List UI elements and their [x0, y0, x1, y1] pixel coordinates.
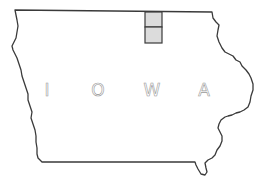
highlighted-square-north: [145, 12, 162, 27]
highlighted-square-south: [145, 27, 162, 43]
state-letter-w: W: [144, 80, 161, 100]
state-letter-i: I: [44, 80, 49, 100]
state-letter-a: A: [198, 80, 210, 100]
state-letter-o: O: [91, 80, 104, 100]
iowa-map: I O W A: [0, 0, 264, 183]
